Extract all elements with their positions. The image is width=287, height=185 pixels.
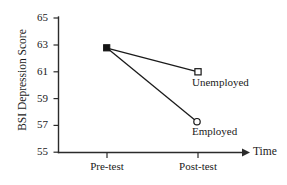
y-tick-label-59: 59	[26, 93, 48, 104]
y-tick-label-65: 65	[26, 12, 48, 23]
x-axis-title: Time	[253, 146, 277, 158]
y-tick-label-63: 63	[26, 39, 48, 50]
y-axis-title: BSI Depression Score	[17, 10, 29, 150]
marker-unemployed-open-square	[195, 69, 201, 75]
series-label-unemployed: Unemployed	[192, 77, 249, 88]
x-tick-label-post-test: Post-test	[167, 161, 229, 172]
chart-figure: 65 63 61 59 57 55 BSI Depression Score P…	[0, 0, 287, 185]
y-tick-label-61: 61	[26, 66, 48, 77]
series-line-employed	[107, 48, 197, 122]
x-tick-label-pre-test: Pre-test	[77, 161, 137, 172]
y-tick-label-55: 55	[26, 146, 48, 157]
marker-pre-test-filled-square	[104, 45, 110, 51]
series-label-employed: Employed	[192, 126, 237, 137]
x-axis-arrow-icon	[242, 148, 250, 156]
marker-employed-open-circle	[194, 119, 200, 125]
y-tick-label-57: 57	[26, 119, 48, 130]
